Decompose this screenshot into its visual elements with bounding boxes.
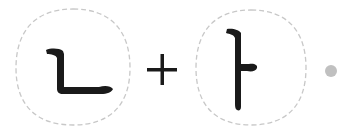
left-jamo-card: ㄴ	[13, 6, 133, 128]
a-vowel-glyph	[226, 29, 257, 111]
dashed-circle-left	[13, 6, 133, 128]
left-jamo-char: ㄴ	[13, 128, 14, 129]
result-dot-indicator	[325, 65, 337, 77]
right-jamo-card: ㅏ	[191, 6, 311, 128]
right-jamo-char: ㅏ	[191, 128, 192, 129]
operator-text: +	[178, 52, 179, 53]
plus-operator: +	[146, 52, 178, 88]
nieun-glyph	[46, 49, 113, 94]
dashed-circle-right	[191, 6, 311, 128]
